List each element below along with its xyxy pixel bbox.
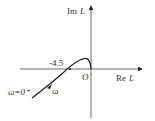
direction-label: ω <box>52 86 58 96</box>
crossing-point <box>69 68 71 70</box>
re-label-prefix: Re <box>116 73 126 83</box>
start-label: ω=0⁺ <box>8 87 31 97</box>
origin-label: O <box>82 72 89 82</box>
re-label-var: L <box>128 73 134 83</box>
crossing-value-label: -4.5 <box>49 58 64 68</box>
im-label-var: L <box>79 6 85 16</box>
nyquist-diagram: Im L Re L O -4.5 ω=0⁺ ω <box>0 0 155 121</box>
im-label-prefix: Im <box>67 6 77 16</box>
nyquist-svg: Im L Re L O -4.5 ω=0⁺ ω <box>0 0 155 121</box>
